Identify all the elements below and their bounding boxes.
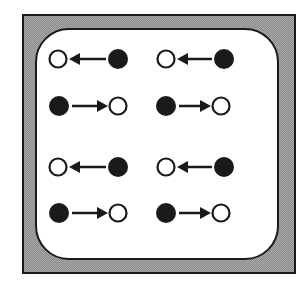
arrow-right-icon bbox=[97, 100, 108, 112]
circle-pair bbox=[50, 49, 129, 69]
open-circle-icon bbox=[213, 205, 230, 222]
arrow-right-icon bbox=[200, 207, 211, 219]
circle-pair bbox=[156, 203, 230, 223]
filled-circle-icon bbox=[49, 96, 69, 116]
circle-pair bbox=[158, 157, 235, 177]
arrow-right-icon bbox=[200, 100, 211, 112]
filled-circle-icon bbox=[108, 157, 128, 177]
filled-circle-icon bbox=[49, 203, 69, 223]
filled-circle-icon bbox=[214, 157, 234, 177]
filled-circle-icon bbox=[156, 96, 176, 116]
open-circle-icon bbox=[50, 51, 67, 68]
open-circle-icon bbox=[158, 51, 175, 68]
arrow-left-icon bbox=[177, 161, 188, 173]
filled-circle-icon bbox=[156, 203, 176, 223]
arrow-left-icon bbox=[69, 161, 80, 173]
open-circle-icon bbox=[213, 98, 230, 115]
circle-pair bbox=[49, 96, 127, 116]
open-circle-icon bbox=[158, 159, 175, 176]
open-circle-icon bbox=[50, 159, 67, 176]
open-circle-icon bbox=[110, 205, 127, 222]
open-circle-icon bbox=[110, 98, 127, 115]
filled-circle-icon bbox=[214, 49, 234, 69]
circle-pair bbox=[158, 49, 235, 69]
arrow-left-icon bbox=[177, 53, 188, 65]
circle-pair bbox=[156, 96, 230, 116]
arrow-left-icon bbox=[69, 53, 80, 65]
filled-circle-icon bbox=[108, 49, 128, 69]
circle-pair bbox=[49, 203, 127, 223]
particle-transfer-diagram bbox=[0, 0, 304, 283]
arrow-right-icon bbox=[97, 207, 108, 219]
circle-pair bbox=[50, 157, 129, 177]
